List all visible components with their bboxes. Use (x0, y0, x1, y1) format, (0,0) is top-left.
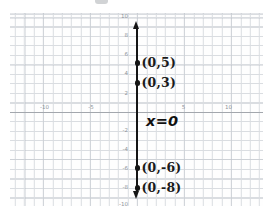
graph-paper-canvas: -10 -5 5 10 10 8 6 4 2 -2 -4 -6 -8 -10 (… (0, 0, 267, 222)
y-tick-label-neg10: -10 (98, 201, 128, 208)
arrow-down-icon (133, 191, 139, 199)
data-point-0-neg6 (135, 165, 140, 170)
point-label-0-neg6: (0,-6) (142, 160, 182, 176)
x-tick-label-5: 5 (174, 104, 194, 111)
y-tick-label-neg8: -8 (98, 184, 128, 191)
point-label-0-neg8: (0,-8) (142, 180, 182, 196)
x-tick-label-10: 10 (219, 104, 239, 111)
data-point-0-neg8 (135, 185, 140, 190)
point-label-0-3: (0,3) (142, 75, 177, 91)
y-tick-label-2: 2 (98, 90, 128, 97)
line-equation-label: x=0 (146, 112, 179, 130)
y-tick-label-neg4: -4 (98, 146, 128, 153)
y-tick-label-neg2: -2 (98, 127, 128, 134)
point-label-0-5: (0,5) (142, 55, 177, 71)
y-tick-label-neg6: -6 (98, 165, 128, 172)
data-point-0-5 (135, 60, 140, 65)
scan-artifact (95, 0, 108, 4)
x-tick-label-neg5: -5 (81, 104, 101, 111)
data-point-0-3 (135, 80, 140, 85)
y-tick-label-4: 4 (98, 70, 128, 77)
x-tick-label-neg10: -10 (35, 104, 55, 111)
y-tick-label-6: 6 (98, 51, 128, 58)
y-tick-label-10: 10 (98, 13, 128, 20)
arrow-up-icon (133, 21, 139, 29)
y-tick-label-8: 8 (98, 32, 128, 39)
